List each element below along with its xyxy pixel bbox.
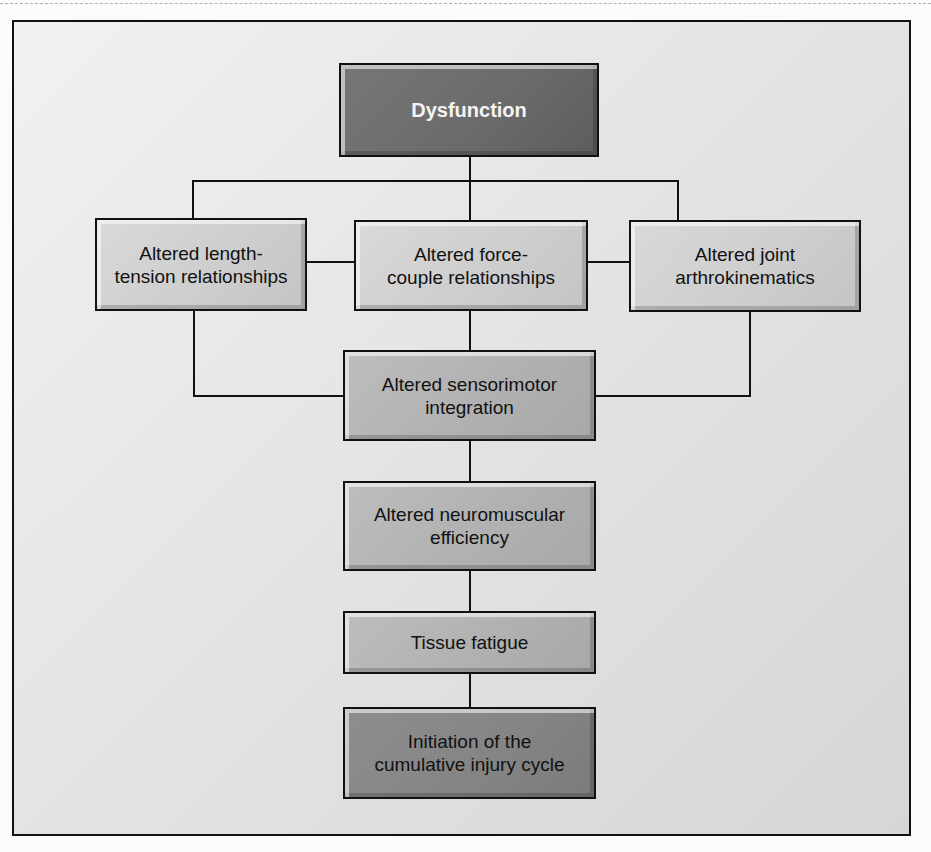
connector-fatigue-initiation xyxy=(469,673,471,708)
node-dysfunction-label: Dysfunction xyxy=(411,99,527,122)
node-force-couple: Altered force- couple relationships xyxy=(354,220,588,311)
node-neuromuscular: Altered neuromuscular efficiency xyxy=(343,481,596,571)
connector-to-force-couple xyxy=(469,180,471,221)
connector-top-horizontal xyxy=(192,180,679,182)
node-dysfunction: Dysfunction xyxy=(339,63,599,157)
node-sensorimotor: Altered sensorimotor integration xyxy=(343,350,596,441)
node-initiation: Initiation of the cumulative injury cycl… xyxy=(343,707,596,799)
node-force-couple-label: Altered force- couple relationships xyxy=(387,243,555,289)
connector-to-length-tension xyxy=(192,180,194,220)
node-initiation-label: Initiation of the cumulative injury cycl… xyxy=(374,730,564,776)
connector-joint-down xyxy=(749,311,751,397)
node-length-tension: Altered length- tension relationships xyxy=(95,218,307,311)
node-joint-arthrokinematics-label: Altered joint arthrokinematics xyxy=(675,243,814,289)
connector-force-joint xyxy=(587,261,629,263)
connector-dysfunction-down xyxy=(469,156,471,182)
connector-length-to-sensorimotor xyxy=(193,395,345,397)
node-tissue-fatigue-label: Tissue fatigue xyxy=(411,631,529,654)
node-tissue-fatigue: Tissue fatigue xyxy=(343,611,596,674)
node-joint-arthrokinematics: Altered joint arthrokinematics xyxy=(629,220,861,312)
node-length-tension-label: Altered length- tension relationships xyxy=(114,242,287,288)
node-neuromuscular-label: Altered neuromuscular efficiency xyxy=(374,503,565,549)
node-sensorimotor-label: Altered sensorimotor integration xyxy=(382,373,557,419)
connector-joint-to-sensorimotor xyxy=(594,395,751,397)
page-dashed-separator xyxy=(0,3,931,4)
connector-sensorimotor-neuromuscular xyxy=(469,440,471,483)
connector-length-force xyxy=(306,261,354,263)
connector-length-down xyxy=(193,310,195,397)
connector-to-joint-arthro xyxy=(677,180,679,221)
connector-force-to-sensorimotor xyxy=(469,310,471,351)
connector-neuromuscular-fatigue xyxy=(469,570,471,612)
